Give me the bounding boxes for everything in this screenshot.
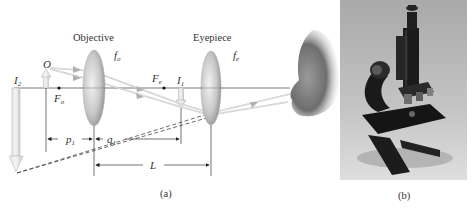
- object-arrow: [41, 69, 51, 88]
- dimension-lines: [46, 88, 211, 176]
- caption-a: (a): [160, 188, 172, 200]
- focal-point-fe: [162, 86, 165, 89]
- compound-microscope-ray-diagram: Objective Eyepiece fo fe O I2 I1 Fo Fe p…: [0, 0, 475, 210]
- objective-label: Objective: [73, 32, 114, 43]
- focal-point-fo: [57, 86, 60, 89]
- observer-face: [290, 30, 339, 116]
- focal-point-fo-label: Fo: [53, 92, 65, 106]
- focal-length-fe-label: fe: [233, 49, 239, 63]
- focal-point-fe-label: Fe: [151, 72, 162, 86]
- microscope-photo: [340, 0, 467, 180]
- caption-b: (b): [398, 190, 411, 202]
- image-i2-label: I2: [13, 74, 22, 88]
- image-i2-arrow: [9, 88, 23, 172]
- image-i1-label: I1: [176, 74, 184, 88]
- length-L-label: L: [149, 159, 156, 171]
- p1-label: p1: [65, 133, 75, 147]
- eyepiece-label: Eyepiece: [193, 32, 232, 43]
- q1-label: q1: [107, 133, 116, 147]
- focal-length-fo-label: fo: [114, 49, 121, 63]
- object-label: O: [43, 58, 51, 70]
- ray-arrowhead: [73, 66, 81, 73]
